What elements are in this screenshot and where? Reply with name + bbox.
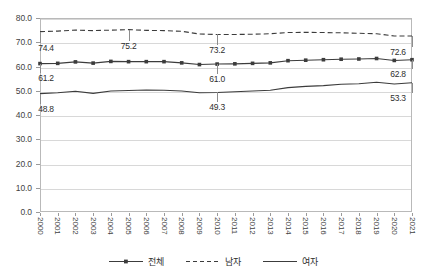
x-axis-tick-label: 2009 xyxy=(195,217,204,235)
value-leader-line xyxy=(412,36,413,47)
series-line-여자 xyxy=(40,82,412,93)
series-marker xyxy=(109,60,113,64)
data-value-label: 75.2 xyxy=(121,41,137,51)
x-axis-tick-mark xyxy=(58,213,59,216)
x-axis-tick-label: 2008 xyxy=(177,217,186,235)
legend-label: 남자 xyxy=(225,255,241,268)
x-axis-tick-label: 2002 xyxy=(71,217,80,235)
value-leader-line xyxy=(412,83,413,93)
series-marker xyxy=(392,59,396,63)
x-axis-tick-label: 2007 xyxy=(160,217,169,235)
x-axis-tick-mark xyxy=(235,213,236,216)
x-axis-tick-label: 2017 xyxy=(337,217,346,235)
x-axis-tick-label: 2021 xyxy=(408,217,417,235)
x-axis-tick-label: 2011 xyxy=(230,217,239,234)
x-axis-tick-mark xyxy=(182,213,183,216)
y-axis-tick-label: 0.0 xyxy=(20,207,32,217)
data-value-label: 72.6 xyxy=(390,47,406,57)
x-axis-tick-mark xyxy=(111,213,112,216)
value-leader-line xyxy=(217,64,218,74)
series-marker xyxy=(180,61,184,65)
x-axis-tick-mark xyxy=(323,213,324,216)
legend-swatch-여자 xyxy=(263,257,297,266)
y-axis-tick-label: 20.0 xyxy=(16,159,32,169)
x-axis-tick-label: 2019 xyxy=(372,217,381,235)
series-marker xyxy=(286,59,290,63)
x-axis-tick-label: 2006 xyxy=(142,217,151,235)
series-marker xyxy=(233,62,237,66)
x-axis-tick-label: 2013 xyxy=(266,217,275,235)
x-axis-tick-mark xyxy=(377,213,378,216)
series-marker xyxy=(74,60,78,64)
series-marker xyxy=(251,62,255,66)
y-axis-tick-label: 70.0 xyxy=(16,37,32,47)
value-leader-line xyxy=(40,32,41,43)
legend-label: 전체 xyxy=(148,255,164,268)
series-marker xyxy=(268,61,272,65)
x-axis-tick-label: 2003 xyxy=(89,217,98,235)
x-axis-tick-mark xyxy=(412,213,413,216)
series-line-전체 xyxy=(40,58,412,64)
series-marker xyxy=(339,57,343,61)
value-leader-line xyxy=(217,34,218,45)
y-axis: 0.010.020.030.040.050.060.070.080.0 xyxy=(0,18,36,212)
y-axis-tick-label: 50.0 xyxy=(16,86,32,96)
legend-swatch-전체 xyxy=(109,257,143,266)
legend-item-전체[interactable]: 전체 xyxy=(109,255,164,268)
x-axis-tick-label: 2016 xyxy=(319,217,328,235)
x-axis-tick-label: 2010 xyxy=(213,217,222,235)
value-leader-line xyxy=(40,64,41,73)
x-axis-tick-mark xyxy=(164,213,165,216)
series-marker xyxy=(91,61,95,65)
value-leader-line xyxy=(217,92,218,102)
x-axis-tick-mark xyxy=(306,213,307,216)
x-axis-tick-mark xyxy=(75,213,76,216)
series-marker xyxy=(322,58,326,62)
x-axis-tick-mark xyxy=(270,213,271,216)
series-marker xyxy=(56,62,60,66)
series-marker xyxy=(357,57,361,61)
data-value-label: 49.3 xyxy=(209,102,225,112)
data-value-label: 61.2 xyxy=(38,73,54,83)
x-axis-tick-label: 2012 xyxy=(248,217,257,235)
series-marker xyxy=(162,60,166,64)
x-axis: 2000200120022003200420052006200720082009… xyxy=(40,213,412,253)
x-axis-tick-label: 2005 xyxy=(124,217,133,235)
x-axis-tick-mark xyxy=(217,213,218,216)
y-axis-tick-label: 30.0 xyxy=(16,134,32,144)
y-axis-tick-label: 60.0 xyxy=(16,62,32,72)
x-axis-tick-mark xyxy=(341,213,342,216)
line-chart: 0.010.020.030.040.050.060.070.080.0 74.4… xyxy=(0,0,426,273)
series-marker xyxy=(127,60,131,64)
value-leader-line xyxy=(129,30,130,41)
x-axis-tick-mark xyxy=(146,213,147,216)
series-marker xyxy=(144,60,148,64)
legend-label: 여자 xyxy=(302,255,318,268)
x-axis-tick-label: 2014 xyxy=(284,217,293,235)
legend-item-여자[interactable]: 여자 xyxy=(263,255,318,268)
data-value-label: 73.2 xyxy=(209,45,225,55)
x-axis-tick-label: 2018 xyxy=(354,217,363,235)
x-axis-tick-mark xyxy=(394,213,395,216)
data-value-label: 48.8 xyxy=(38,104,54,114)
legend-item-남자[interactable]: 남자 xyxy=(186,255,241,268)
value-leader-line xyxy=(412,60,413,69)
series-marker xyxy=(304,58,308,62)
x-axis-tick-label: 2004 xyxy=(106,217,115,235)
x-axis-tick-label: 2001 xyxy=(53,217,62,235)
data-value-label: 61.0 xyxy=(209,74,225,84)
series-marker xyxy=(198,63,202,67)
x-axis-tick-mark xyxy=(93,213,94,216)
x-axis-tick-label: 2020 xyxy=(390,217,399,235)
data-value-label: 74.4 xyxy=(38,43,54,53)
y-axis-tick-label: 40.0 xyxy=(16,110,32,120)
x-axis-tick-mark xyxy=(253,213,254,216)
chart-legend: 전체남자여자 xyxy=(0,252,426,270)
x-axis-tick-mark xyxy=(288,213,289,216)
legend-swatch-남자 xyxy=(186,257,220,266)
x-axis-tick-mark xyxy=(40,213,41,216)
x-axis-tick-mark xyxy=(129,213,130,216)
data-value-label: 62.8 xyxy=(390,69,406,79)
x-axis-tick-mark xyxy=(199,213,200,216)
data-series-layer xyxy=(40,18,412,212)
